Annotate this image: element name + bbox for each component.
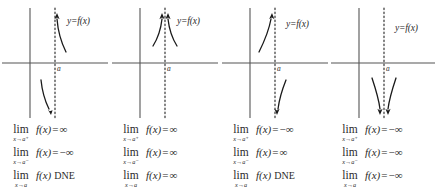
- lim-operator: lim: [8, 170, 34, 181]
- lim-dne: DNE: [54, 170, 75, 181]
- lim-body: f(x): [365, 123, 380, 135]
- lim-operator: lim: [118, 124, 144, 135]
- lim-subscript: x→a: [15, 181, 27, 188]
- lim-operator: lim: [228, 124, 254, 135]
- lim-value: −∞: [388, 169, 402, 181]
- panel-3-graph: y=f(x) a: [220, 0, 330, 120]
- lim-equals: =: [52, 146, 58, 158]
- lim-operator: lim: [337, 147, 363, 158]
- lim-equals: =: [162, 146, 168, 158]
- function-label: y=f(x): [177, 16, 200, 26]
- limit-operator-stack: lim x→a⁺: [118, 124, 144, 135]
- lim-value: ∞: [169, 169, 177, 181]
- limit-row: lim x→a⁻ f(x)=−∞: [8, 145, 112, 168]
- lim-body: f(x): [36, 123, 51, 135]
- curve-left-down: [41, 80, 53, 115]
- limit-operator-stack: lim x→a: [337, 170, 363, 181]
- lim-subscript: x→a: [125, 181, 137, 188]
- lim-value: −∞: [388, 123, 402, 135]
- curve-right-up: [54, 13, 66, 52]
- limit-operator-stack: lim x→a⁺: [228, 124, 254, 135]
- function-label: y=f(x): [67, 16, 90, 26]
- limit-row: lim x→a⁻ f(x)=−∞: [337, 145, 439, 168]
- lim-value: −∞: [388, 146, 402, 158]
- lim-operator: lim: [8, 124, 34, 135]
- lim-body: f(x): [256, 169, 271, 181]
- limit-row: lim x→a⁻ f(x)=∞: [118, 145, 222, 168]
- lim-equals: =: [162, 169, 168, 181]
- lim-operator: lim: [337, 124, 363, 135]
- lim-equals: =: [381, 123, 387, 135]
- lim-subscript: x→a⁺: [233, 135, 249, 142]
- limit-operator-stack: lim x→a⁻: [228, 147, 254, 158]
- lim-operator: lim: [228, 170, 254, 181]
- lim-body: f(x): [36, 146, 51, 158]
- panel-1: y=f(x) a lim x→a⁺ f(x)=∞ lim x→a⁻ f(x)=−…: [0, 0, 110, 194]
- lim-operator: lim: [118, 170, 144, 181]
- panel-1-graph: y=f(x) a: [0, 0, 110, 120]
- lim-equals: =: [381, 146, 387, 158]
- panel-2: y=f(x) a lim x→a⁺ f(x)=∞ lim x→a⁻ f(x)=∞…: [110, 0, 220, 194]
- lim-value: ∞: [169, 123, 177, 135]
- function-label: y=f(x): [395, 23, 418, 33]
- curve-right-up: [165, 13, 177, 46]
- panel-2-limits: lim x→a⁺ f(x)=∞ lim x→a⁻ f(x)=∞ lim x→a …: [118, 122, 222, 191]
- asymptote-point-label: a: [167, 64, 171, 73]
- lim-subscript: x→a⁻: [342, 158, 358, 165]
- function-label: y=f(x): [286, 19, 309, 29]
- lim-value: ∞: [279, 146, 287, 158]
- asymptote-point-label: a: [386, 64, 390, 73]
- axes: [331, 8, 435, 118]
- lim-value: ∞: [169, 146, 177, 158]
- lim-subscript: x→a: [235, 181, 247, 188]
- lim-equals: =: [272, 146, 278, 158]
- limit-operator-stack: lim x→a⁺: [8, 124, 34, 135]
- asymptote-point-label: a: [57, 64, 61, 73]
- lim-equals: =: [162, 123, 168, 135]
- limit-operator-stack: lim x→a: [8, 170, 34, 181]
- panel-4-limits: lim x→a⁺ f(x)=−∞ lim x→a⁻ f(x)=−∞ lim x→…: [337, 122, 439, 191]
- lim-subscript: x→a⁻: [123, 158, 139, 165]
- limit-operator-stack: lim x→a⁺: [337, 124, 363, 135]
- lim-dne: DNE: [274, 170, 295, 181]
- lim-value: −∞: [279, 123, 293, 135]
- panel-2-graph: y=f(x) a: [110, 0, 220, 120]
- lim-body: f(x): [146, 169, 161, 181]
- lim-operator: lim: [118, 147, 144, 158]
- curve-left-down: [372, 78, 383, 115]
- limit-operator-stack: lim x→a⁻: [118, 147, 144, 158]
- lim-body: f(x): [256, 146, 271, 158]
- curve-left-up: [259, 13, 274, 52]
- lim-operator: lim: [8, 147, 34, 158]
- limit-row: lim x→a⁺ f(x)=∞: [118, 122, 222, 145]
- panel-4: y=f(x) a lim x→a⁺ f(x)=−∞ lim x→a⁻ f(x)=…: [329, 0, 439, 194]
- lim-operator: lim: [337, 170, 363, 181]
- lim-equals: =: [52, 123, 58, 135]
- lim-body: f(x): [146, 123, 161, 135]
- lim-subscript: x→a⁻: [13, 158, 29, 165]
- panel-1-limits: lim x→a⁺ f(x)=∞ lim x→a⁻ f(x)=−∞ lim x→a…: [8, 122, 112, 191]
- lim-subscript: x→a: [344, 181, 356, 188]
- limit-operator-stack: lim x→a: [228, 170, 254, 181]
- panel-3: y=f(x) a lim x→a⁺ f(x)=−∞ lim x→a⁻ f(x)=…: [220, 0, 330, 194]
- lim-subscript: x→a⁺: [123, 135, 139, 142]
- limit-row: lim x→a⁻ f(x)=∞: [228, 145, 332, 168]
- lim-value: −∞: [59, 146, 73, 158]
- curve-right-down: [385, 78, 396, 115]
- lim-equals: =: [272, 123, 278, 135]
- lim-body: f(x): [36, 169, 51, 181]
- limit-operator-stack: lim x→a⁻: [8, 147, 34, 158]
- panel-4-graph: y=f(x) a: [329, 0, 439, 120]
- limit-row: lim x→a⁺ f(x)=−∞: [228, 122, 332, 145]
- lim-subscript: x→a⁺: [13, 135, 29, 142]
- lim-value: ∞: [59, 123, 67, 135]
- lim-equals: =: [381, 169, 387, 181]
- panel-3-limits: lim x→a⁺ f(x)=−∞ lim x→a⁻ f(x)=∞ lim x→a…: [228, 122, 332, 191]
- limit-row: lim x→a f(x)DNE: [228, 168, 332, 191]
- lim-operator: lim: [228, 147, 254, 158]
- lim-body: f(x): [256, 123, 271, 135]
- lim-subscript: x→a⁻: [233, 158, 249, 165]
- limit-row: lim x→a⁺ f(x)=∞: [8, 122, 112, 145]
- limit-operator-stack: lim x→a⁻: [337, 147, 363, 158]
- limit-row: lim x→a⁺ f(x)=−∞: [337, 122, 439, 145]
